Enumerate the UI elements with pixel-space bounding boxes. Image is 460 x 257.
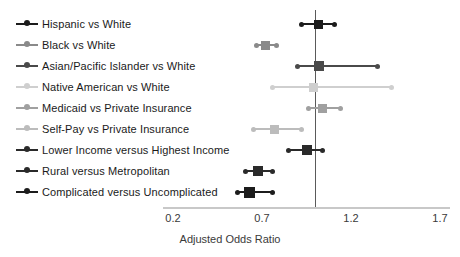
forest-row: Complicated versus Uncomplicated [0, 182, 218, 202]
forest-row: Self-Pay vs Private Insurance [0, 119, 189, 139]
series-legend-icon [16, 39, 38, 51]
legend-dot [24, 125, 30, 131]
point-estimate-box [309, 83, 318, 92]
forest-plot: Hispanic vs WhiteBlack vs WhiteAsian/Pac… [0, 0, 460, 257]
series-legend-icon [16, 81, 38, 93]
x-tick-label: 0.7 [242, 212, 282, 224]
legend-dot [24, 83, 30, 89]
x-tick-label: 1.2 [331, 212, 371, 224]
ci-upper-cap [270, 169, 275, 174]
forest-row: Lower Income versus Highest Income [0, 140, 229, 160]
forest-row-label: Asian/Pacific Islander vs White [38, 60, 196, 72]
forest-row: Medicaid vs Private Insurance [0, 98, 192, 118]
ci-lower-cap [295, 64, 300, 69]
point-estimate-box [314, 61, 324, 71]
series-legend-icon [16, 60, 38, 72]
forest-row-label: Black vs White [38, 39, 116, 51]
point-estimate-box [314, 20, 323, 29]
point-estimate-box [302, 145, 312, 155]
forest-row-label: Medicaid vs Private Insurance [38, 102, 192, 114]
ci-upper-cap [274, 43, 279, 48]
forest-row: Rural versus Metropolitan [0, 161, 170, 181]
point-estimate-box [253, 166, 263, 176]
ci-upper-cap [332, 22, 337, 27]
ci-upper-cap [375, 64, 380, 69]
forest-row-label: Complicated versus Uncomplicated [38, 186, 218, 198]
point-estimate-box [318, 104, 327, 113]
point-estimate-box [261, 41, 270, 50]
ci-lower-cap [254, 43, 259, 48]
legend-dot [24, 20, 30, 26]
forest-row-label: Native American vs White [38, 81, 170, 93]
forest-row-label: Self-Pay vs Private Insurance [38, 123, 189, 135]
series-legend-icon [16, 123, 38, 135]
point-estimate-box [270, 125, 279, 134]
ci-lower-cap [286, 148, 291, 153]
ci-lower-cap [299, 22, 304, 27]
legend-dot [24, 62, 30, 68]
forest-row: Asian/Pacific Islander vs White [0, 56, 196, 76]
series-legend-icon [16, 102, 38, 114]
legend-dot [24, 188, 30, 194]
forest-row: Native American vs White [0, 77, 170, 97]
ci-lower-cap [306, 106, 311, 111]
x-axis-line [163, 207, 450, 209]
ci-upper-cap [299, 127, 304, 132]
point-estimate-box [244, 187, 255, 198]
x-tick-label: 0.2 [153, 212, 193, 224]
forest-row-label: Lower Income versus Highest Income [38, 144, 229, 156]
series-legend-icon [16, 144, 38, 156]
ci-upper-cap [389, 85, 394, 90]
ci-upper-cap [270, 190, 275, 195]
legend-dot [24, 167, 30, 173]
confidence-interval-line [273, 86, 392, 88]
ci-lower-cap [235, 190, 240, 195]
legend-dot [24, 104, 30, 110]
ci-upper-cap [320, 148, 325, 153]
forest-row: Hispanic vs White [0, 14, 131, 34]
series-legend-icon [16, 186, 38, 198]
ci-upper-cap [338, 106, 343, 111]
forest-row: Black vs White [0, 35, 116, 55]
ci-lower-cap [243, 169, 248, 174]
x-axis-label: Adjusted Odds Ratio [0, 233, 460, 245]
x-tick-label: 1.7 [420, 212, 460, 224]
confidence-interval-line [298, 65, 378, 67]
series-legend-icon [16, 18, 38, 30]
forest-row-label: Rural versus Metropolitan [38, 165, 170, 177]
forest-row-label: Hispanic vs White [38, 18, 131, 30]
series-legend-icon [16, 165, 38, 177]
legend-dot [24, 146, 30, 152]
legend-dot [24, 41, 30, 47]
ci-lower-cap [270, 85, 275, 90]
ci-lower-cap [251, 127, 256, 132]
